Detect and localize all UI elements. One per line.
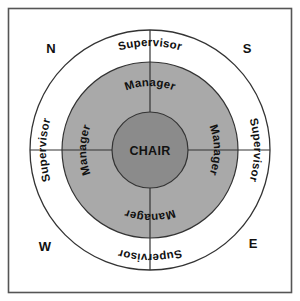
concentric-org-chart: CHAIR Supervisor Supervisor Supervisor S… bbox=[0, 0, 300, 301]
quadrant-label-east-text: E bbox=[249, 236, 258, 251]
quadrant-label-south-text: S bbox=[243, 41, 252, 56]
quadrant-label-east: E bbox=[249, 236, 258, 251]
quadrant-label-west-text: W bbox=[39, 239, 52, 254]
quadrant-label-west: W bbox=[39, 239, 52, 254]
diagram-canvas: CHAIR Supervisor Supervisor Supervisor S… bbox=[0, 0, 300, 301]
quadrant-label-north: N bbox=[46, 41, 55, 56]
center-label-chair-text: CHAIR bbox=[129, 144, 170, 158]
quadrant-label-south: S bbox=[243, 41, 252, 56]
quadrant-label-north-text: N bbox=[46, 41, 55, 56]
center-label-chair: CHAIR bbox=[129, 144, 170, 158]
